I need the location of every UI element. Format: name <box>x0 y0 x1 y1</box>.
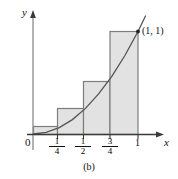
riemann-sum-figure: y x 0 1 4 1 2 3 4 1 (1, 1) (b) <box>0 0 178 179</box>
fraction-denominator: 4 <box>102 146 118 156</box>
bar-3 <box>84 82 111 135</box>
y-axis-label: y <box>22 7 27 18</box>
x-axis-ticks <box>58 135 139 140</box>
x-tick-label-one: 1 <box>135 138 140 148</box>
fraction-denominator: 4 <box>49 146 65 156</box>
x-tick-label-one-quarter: 1 4 <box>49 137 65 157</box>
point-annotation-label: (1, 1) <box>142 26 164 36</box>
x-axis-label: x <box>164 137 169 148</box>
fraction-numerator: 3 <box>102 137 118 146</box>
x-tick-label-three-quarters: 3 4 <box>102 137 118 157</box>
origin-label: 0 <box>25 137 31 148</box>
point-marker-1-1 <box>136 30 140 34</box>
figure-caption: (b) <box>0 161 178 172</box>
fraction-numerator: 1 <box>49 137 65 146</box>
y-axis-arrowhead <box>30 10 36 18</box>
fraction-denominator: 2 <box>75 146 91 156</box>
riemann-bars <box>34 32 139 135</box>
fraction-numerator: 1 <box>75 137 91 146</box>
bar-4 <box>110 32 138 135</box>
x-tick-label-one-half: 1 2 <box>75 137 91 157</box>
x-axis-arrowhead <box>156 132 164 138</box>
